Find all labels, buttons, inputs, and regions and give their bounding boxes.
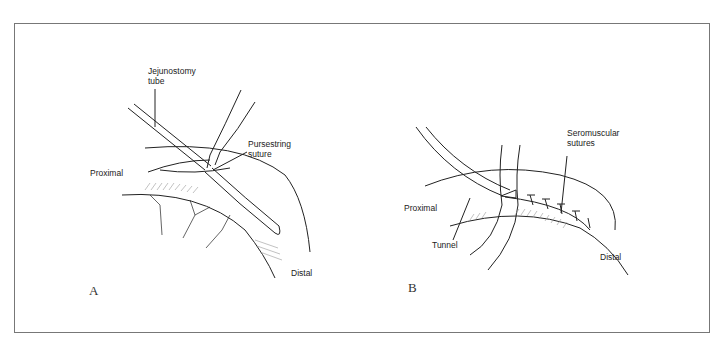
panel-a-drawing [122,89,310,278]
jejunostomy-tube-label: Jejunostomy tube [148,66,196,86]
label-line: Pursestring [248,139,291,149]
panel-b-drawing [416,127,628,275]
proximal-label-a: Proximal [90,168,123,178]
distal-label-b: Distal [600,252,621,262]
label-line: sutures [567,138,619,148]
proximal-label-b: Proximal [404,203,437,213]
panel-a-letter: A [89,283,98,299]
label-line: Jejunostomy [148,66,196,76]
label-line: tube [148,76,196,86]
seromuscular-sutures-label: Seromuscular sutures [567,128,619,148]
pursestring-suture-label: Pursestring suture [248,139,291,159]
label-line: Seromuscular [567,128,619,138]
panel-b-letter: B [408,280,417,296]
tunnel-label: Tunnel [432,240,458,250]
label-line: suture [248,149,291,159]
distal-label-a: Distal [291,268,312,278]
